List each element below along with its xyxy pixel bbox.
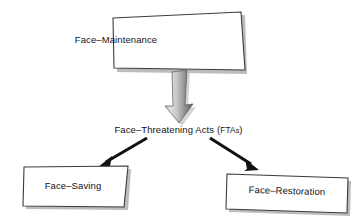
edge-ftas-to-restoration [210, 138, 259, 171]
ftas-label-abbrev: FTA [220, 126, 235, 135]
edge-ftas-to-restoration-arrowhead [244, 159, 259, 171]
ftas-label-main: Face–Threatening Acts ( [114, 124, 220, 135]
edge-ftas-to-saving [98, 138, 147, 168]
node-label-face-maintenance: Face–Maintenance [0, 34, 232, 45]
edge-ftas-to-saving-line [106, 138, 147, 162]
edge-maintenance-to-ftas [165, 70, 196, 126]
diagram-canvas: Face–Maintenance Face–Threatening Acts (… [0, 0, 357, 221]
edge-ftas-to-restoration-line [210, 138, 251, 164]
ftas-label-close: ) [239, 124, 242, 135]
node-label-face-saving: Face–Saving [23, 180, 123, 191]
node-label-face-threatening-acts: Face–Threatening Acts (FTAs) [0, 124, 357, 135]
